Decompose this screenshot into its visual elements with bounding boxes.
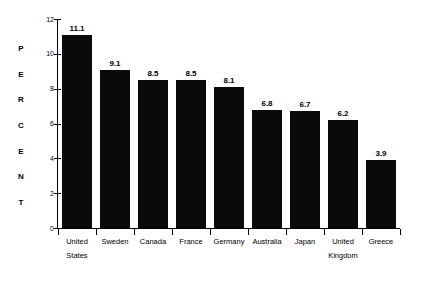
x-category-label: Germany [210, 236, 248, 247]
y-axis-title-letter: C [18, 122, 24, 130]
bar-value-label: 8.5 [185, 69, 196, 78]
x-axis-line [57, 228, 400, 229]
y-axis-title-letter: N [18, 173, 24, 181]
bar-group[interactable]: 8.5 [138, 19, 168, 228]
x-tick-mark [362, 229, 363, 235]
bar-value-label: 6.8 [261, 99, 272, 108]
bar[interactable] [290, 111, 320, 228]
y-axis-title-letter: P [18, 45, 23, 53]
x-category-label: UnitedStates [58, 236, 96, 261]
x-tick-mark [172, 229, 173, 235]
bar-value-label: 8.1 [223, 76, 234, 85]
x-category-label: Greece [362, 236, 400, 247]
y-axis-title-letter: E [18, 71, 23, 79]
y-tick-mark [54, 158, 61, 159]
x-category-label: Canada [134, 236, 172, 247]
y-axis-tick-labels: 024681012 [32, 0, 54, 288]
x-axis-category-labels: UnitedStatesSwedenCanadaFranceGermanyAus… [58, 236, 400, 276]
x-category-label: Sweden [96, 236, 134, 247]
x-category-label-line: Greece [369, 237, 394, 246]
bar-value-label: 8.5 [147, 69, 158, 78]
bar-chart: PERCENT 024681012 11.19.18.58.58.16.86.7… [0, 0, 422, 288]
y-tick-mark [54, 54, 61, 55]
x-category-label-line: United [332, 237, 354, 246]
y-axis-title: PERCENT [14, 45, 28, 207]
bar[interactable] [100, 70, 130, 228]
bar[interactable] [62, 35, 92, 228]
bar-value-label: 3.9 [375, 149, 386, 158]
bar[interactable] [138, 80, 168, 228]
bar[interactable] [328, 120, 358, 228]
x-category-label-line: Sweden [101, 237, 128, 246]
x-tick-mark [286, 229, 287, 235]
x-category-label-line: Canada [140, 237, 166, 246]
bar-group[interactable]: 6.8 [252, 19, 282, 228]
x-category-label-line: Australia [252, 237, 281, 246]
bar-group[interactable]: 8.1 [214, 19, 244, 228]
bar[interactable] [214, 87, 244, 228]
x-tick-mark [400, 229, 401, 235]
y-tick-label: 6 [34, 120, 54, 127]
x-category-label: France [172, 236, 210, 247]
bar-group[interactable]: 3.9 [366, 19, 396, 228]
x-category-label-line: States [58, 250, 96, 261]
x-category-label: UnitedKingdom [324, 236, 362, 261]
plot-area: 11.19.18.58.58.16.86.76.23.9 [58, 19, 400, 228]
y-tick-label: 12 [34, 16, 54, 23]
y-tick-label: 10 [34, 50, 54, 57]
y-tick-mark [54, 19, 61, 20]
bar-group[interactable]: 6.7 [290, 19, 320, 228]
bar-group[interactable]: 11.1 [62, 19, 92, 228]
y-tick-label: 4 [34, 155, 54, 162]
bar[interactable] [176, 80, 206, 228]
y-tick-mark [54, 193, 61, 194]
bar[interactable] [252, 110, 282, 228]
y-tick-label: 2 [34, 190, 54, 197]
x-category-label-line: France [179, 237, 202, 246]
x-category-label-line: Japan [295, 237, 315, 246]
bar-value-label: 11.1 [69, 24, 84, 33]
y-axis-title-letter: E [18, 148, 23, 156]
x-category-label: Australia [248, 236, 286, 247]
bar-value-label: 6.7 [299, 100, 310, 109]
bar-value-label: 9.1 [109, 59, 120, 68]
y-tick-mark [54, 124, 61, 125]
y-tick-label: 0 [34, 225, 54, 232]
y-axis-title-letter: R [18, 96, 24, 104]
x-tick-mark [324, 229, 325, 235]
x-category-label-line: Germany [214, 237, 245, 246]
y-tick-mark [54, 89, 61, 90]
x-tick-mark [248, 229, 249, 235]
x-tick-mark [58, 229, 59, 235]
y-tick-label: 8 [34, 85, 54, 92]
x-category-label: Japan [286, 236, 324, 247]
bar-group[interactable]: 9.1 [100, 19, 130, 228]
x-tick-mark [134, 229, 135, 235]
x-tick-mark [96, 229, 97, 235]
bar-group[interactable]: 8.5 [176, 19, 206, 228]
y-axis-title-letter: T [19, 199, 24, 207]
bar-group[interactable]: 6.2 [328, 19, 358, 228]
x-tick-mark [210, 229, 211, 235]
bar-value-label: 6.2 [337, 109, 348, 118]
x-category-label-line: Kingdom [324, 250, 362, 261]
x-category-label-line: United [66, 237, 88, 246]
bar[interactable] [366, 160, 396, 228]
